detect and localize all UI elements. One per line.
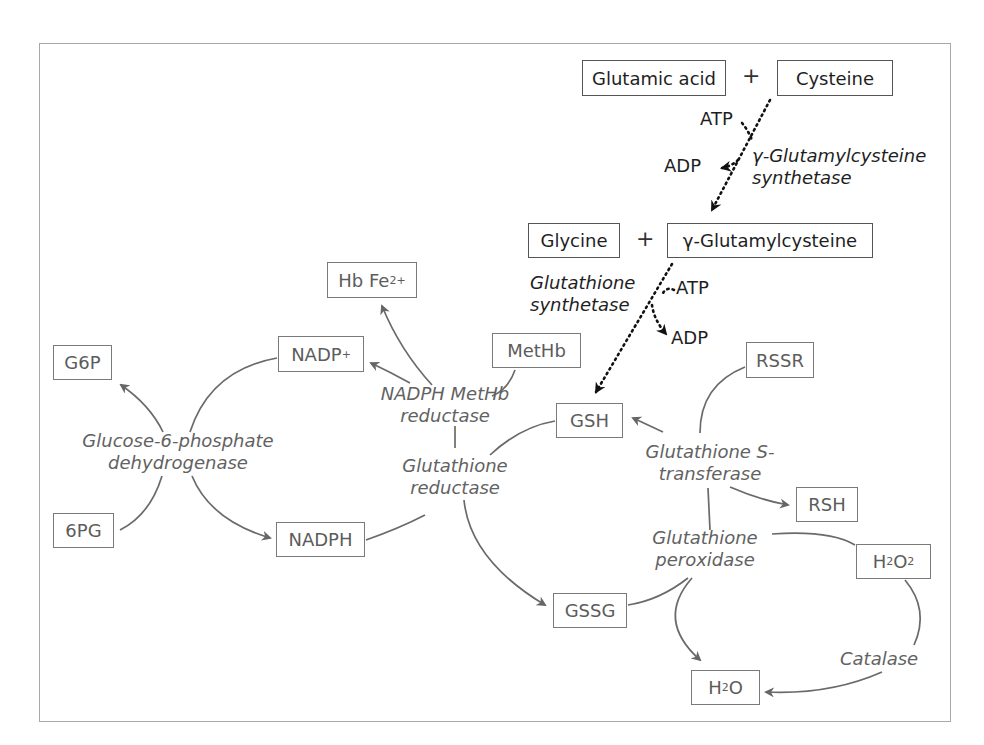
nadph-box: NADPH (276, 522, 365, 557)
h2o-label: O (729, 677, 743, 698)
nadp-label: NADP (291, 344, 342, 365)
charge-superscript: + (342, 348, 351, 361)
glutathione-peroxidase-label: Glutathione peroxidase (640, 527, 770, 571)
rssr-into-gst (700, 367, 745, 433)
enzyme-label-line: Glutathione (640, 527, 770, 549)
methb-red-to-nadp (371, 363, 410, 383)
gsh-label: GSH (570, 410, 609, 431)
gsh-box: GSH (556, 403, 623, 438)
gst-to-gsh (633, 418, 663, 432)
enzyme-label-line: dehydrogenase (80, 452, 276, 474)
nadp-plus-box: NADP+ (278, 336, 364, 372)
glutathione-reductase-label: Glutathione reductase (385, 455, 525, 499)
hb-fe2-box: Hb Fe2+ (327, 262, 417, 298)
6pg-label: 6PG (65, 520, 101, 541)
methb-box: MetHb (492, 333, 581, 368)
h2o2-label: H (873, 551, 887, 572)
rsh-box: RSH (796, 487, 858, 522)
enzyme-label-line: reductase (370, 405, 520, 427)
enzyme-label-line: γ-Glutamylcysteine (752, 145, 926, 167)
glutamic-acid-box: Glutamic acid (582, 60, 726, 96)
enzyme-label-line: Glutathione (530, 272, 635, 294)
gssg-box: GSSG (553, 593, 627, 628)
nadp-into-g6pd (190, 358, 277, 432)
subscript: 2 (722, 681, 729, 694)
gamma-glutamylcysteine-box: γ-Glutamylcysteine (667, 223, 873, 258)
methb-red-to-hbfe (382, 306, 432, 385)
glutathione-synthetase-label: Glutathione synthetase (530, 272, 635, 316)
h2o2-label: O (893, 551, 907, 572)
atp1-input (742, 123, 752, 140)
glycine-label: Glycine (541, 230, 608, 251)
glutamic-acid-label: Glutamic acid (592, 68, 716, 89)
plus-sign: + (742, 63, 760, 88)
enzyme-label-line: peroxidase (640, 549, 770, 571)
h2o-box: H2O (691, 670, 760, 705)
enzyme-label-line: Glutathione S- (630, 441, 790, 463)
enzyme-label-line: transferase (630, 463, 790, 485)
methb-label: MetHb (507, 340, 566, 361)
adp2-output (652, 305, 666, 334)
gr-from-gssg (464, 500, 545, 605)
6pg-box: 6PG (53, 513, 114, 548)
hb-fe-label: Hb Fe (338, 270, 389, 291)
enzyme-label-line: synthetase (752, 167, 926, 189)
gpx-to-h2o (675, 578, 700, 660)
6pg-into-g6pd (120, 476, 162, 530)
enzyme-label-line: synthetase (530, 294, 635, 316)
subscript: 2 (886, 555, 893, 568)
gst-gpx-link (708, 488, 710, 530)
subscript: 2 (907, 555, 914, 568)
enzyme-label-line: NADPH MetHb (370, 383, 520, 405)
cysteine-label: Cysteine (796, 68, 874, 89)
nadph-methb-reductase-label: NADPH MetHb reductase (370, 383, 520, 427)
enzyme-label-line: Glutathione (385, 455, 525, 477)
gamma-glutamylcysteine-label: γ-Glutamylcysteine (683, 230, 857, 251)
gpx-to-gssg (628, 578, 688, 605)
h2o2-box: H2O2 (856, 544, 931, 579)
atp2-input (662, 289, 674, 295)
enzyme-label-line: Glucose-6-phosphate (80, 430, 276, 452)
rsh-label: RSH (808, 494, 845, 515)
g6p-box: G6P (53, 345, 112, 380)
atp-label: ATP (700, 108, 733, 130)
h2o2-into-catalase (905, 580, 920, 645)
cysteine-box: Cysteine (777, 60, 893, 96)
g6pd-to-g6p (121, 385, 163, 432)
glycine-box: Glycine (528, 223, 620, 258)
g6p-label: G6P (64, 352, 100, 373)
charge-superscript: 2+ (389, 274, 405, 287)
atp-label: ATP (676, 277, 709, 299)
plus-sign: + (636, 226, 654, 251)
g6pd-to-nadph (192, 476, 270, 538)
catalase-to-h2o (766, 672, 882, 692)
gpx-h2o2-link (772, 533, 855, 545)
nadph-into-gr (366, 515, 425, 540)
pathway-arrows (0, 0, 984, 745)
nadph-label: NADPH (288, 529, 352, 550)
gst-to-rsh (730, 487, 788, 505)
adp-label: ADP (664, 155, 701, 177)
adp-label: ADP (671, 327, 708, 349)
gssg-label: GSSG (565, 600, 616, 621)
enzyme-label-line: reductase (385, 477, 525, 499)
g6pd-label: Glucose-6-phosphate dehydrogenase (80, 430, 276, 474)
rssr-label: RSSR (756, 350, 804, 371)
catalase-label: Catalase (840, 648, 918, 670)
h2o-label: H (708, 677, 722, 698)
rssr-box: RSSR (746, 342, 814, 378)
gamma-glutamylcysteine-synthetase-label: γ-Glutamylcysteine synthetase (752, 145, 926, 189)
glutathione-s-transferase-label: Glutathione S- transferase (630, 441, 790, 485)
